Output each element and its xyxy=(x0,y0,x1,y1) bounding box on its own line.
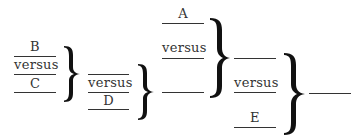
right-brace-icon-1 xyxy=(62,45,82,103)
bracket-line-e xyxy=(234,127,276,128)
bracket-line-versus-4 xyxy=(234,92,276,93)
bracket-line-a xyxy=(162,23,204,24)
bracket-diagram: B versus C versus D A versus versus E xyxy=(0,0,363,138)
bracket-line-winner-3 xyxy=(234,58,276,59)
label-a: A xyxy=(162,7,204,21)
label-versus-1: versus xyxy=(14,58,56,72)
label-versus-4: versus xyxy=(234,76,276,90)
bracket-line-d xyxy=(88,109,129,110)
right-brace-icon-4 xyxy=(282,52,307,136)
right-brace-icon-3 xyxy=(208,17,232,99)
label-b: B xyxy=(14,40,56,54)
bracket-line-versus-1 xyxy=(14,74,56,75)
label-c: C xyxy=(14,77,56,91)
bracket-line-final xyxy=(309,93,351,94)
label-d: D xyxy=(88,94,129,108)
label-versus-2: versus xyxy=(88,76,129,90)
label-e: E xyxy=(234,111,276,125)
bracket-line-versus-3 xyxy=(162,58,204,59)
right-brace-icon-2 xyxy=(136,63,156,121)
bracket-line-c xyxy=(14,92,56,93)
bracket-line-winner-2 xyxy=(162,92,204,93)
label-versus-3: versus xyxy=(162,41,204,55)
